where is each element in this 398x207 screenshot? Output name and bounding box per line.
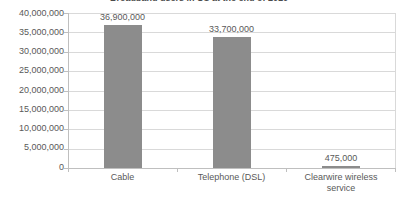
plot-area: 36,900,000 33,700,000 475,000 <box>68 13 396 168</box>
y-axis-tick-label: 10,000,000 <box>0 124 64 133</box>
x-axis-tick <box>286 168 287 172</box>
bar-group-cable: 36,900,000 <box>68 13 177 168</box>
y-axis-tick-label: 0 <box>0 163 64 172</box>
y-axis-tick-label: 20,000,000 <box>0 86 64 95</box>
bar-group-clearwire-wireless-service: 475,000 <box>286 13 396 168</box>
bar-cable[interactable] <box>104 25 142 168</box>
bar-telephone-dsl[interactable] <box>213 37 251 168</box>
bar-value-label: 36,900,000 <box>100 12 145 22</box>
y-axis-tick-label: 30,000,000 <box>0 47 64 56</box>
x-axis-label-clearwire-wireless-service: Clearwire wireless service <box>290 172 392 194</box>
bar-value-label: 475,000 <box>325 153 358 163</box>
y-axis-tick-label: 15,000,000 <box>0 105 64 114</box>
axis-baseline <box>68 168 396 169</box>
y-axis-tick-label: 40,000,000 <box>0 9 64 18</box>
bar-value-label: 33,700,000 <box>209 24 254 34</box>
x-axis-label-cable: Cable <box>68 172 177 183</box>
chart-title: Broadband users in US at the end of 2010 <box>0 0 398 3</box>
x-axis-tick <box>395 168 396 172</box>
y-axis-tick-label: 5,000,000 <box>0 143 64 152</box>
bar-group-telephone-dsl: 33,700,000 <box>177 13 286 168</box>
bar-chart: Broadband users in US at the end of 2010… <box>0 0 398 207</box>
bar-clearwire-wireless-service[interactable] <box>322 166 360 168</box>
x-axis-label-telephone-dsl: Telephone (DSL) <box>177 172 286 183</box>
y-axis-tick-label: 35,000,000 <box>0 28 64 37</box>
y-axis-tick-label: 25,000,000 <box>0 66 64 75</box>
